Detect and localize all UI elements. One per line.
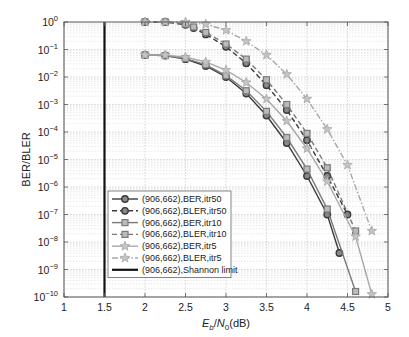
circle-marker-icon [122, 196, 128, 202]
y-tick-label: 10−2 [38, 69, 58, 83]
legend-label: (906,662),BER,itr10 [142, 218, 222, 228]
y-tick-label: 10−9 [38, 262, 58, 276]
x-tick-label: 2 [142, 301, 148, 313]
y-tick-label: 100 [42, 14, 58, 28]
square-marker-icon [122, 231, 128, 237]
square-marker-icon [122, 220, 128, 226]
x-tick-label: 3.5 [259, 301, 274, 313]
y-tick-label: 10−10 [34, 289, 58, 303]
legend-label: (906,662),BLER,itr5 [142, 253, 222, 263]
square-marker-icon [284, 102, 290, 108]
y-tick-label: 10−3 [38, 97, 58, 111]
square-marker-icon [243, 56, 249, 62]
square-marker-icon [203, 29, 209, 35]
square-marker-icon [264, 108, 270, 114]
square-marker-icon [324, 165, 330, 171]
square-marker-icon [264, 77, 270, 83]
legend-label: (906,662),Shannon limit [142, 265, 238, 275]
x-tick-label: 4.5 [340, 301, 355, 313]
square-marker-icon [304, 166, 310, 172]
x-tick-label: 3 [223, 301, 229, 313]
square-marker-icon [304, 130, 310, 136]
square-marker-icon [353, 289, 359, 295]
star-marker-icon [322, 124, 332, 133]
y-tick-label: 10−6 [38, 179, 58, 193]
legend-label: (906,662),BLER,itr50 [142, 206, 227, 216]
circle-marker-icon [122, 208, 128, 214]
legend-label: (906,662),BER,itr5 [142, 241, 217, 251]
y-tick-label: 10−4 [38, 124, 58, 138]
y-tick-label: 10−7 [38, 207, 58, 221]
square-marker-icon [243, 88, 249, 94]
x-tick-label: 1.5 [97, 301, 112, 313]
legend-item: (906,662),BER,itr10 [112, 218, 222, 228]
y-tick-label: 10−5 [38, 152, 58, 166]
ber-bler-chart: 11.522.533.544.55 10010−110−210−310−410−… [0, 0, 409, 337]
legend-label: (906,662),BER,itr50 [142, 194, 222, 204]
x-tick-label: 1 [61, 301, 67, 313]
y-tick-label: 10−8 [38, 234, 58, 248]
x-tick-label: 5 [385, 301, 391, 313]
star-marker-icon [201, 19, 211, 28]
square-marker-icon [223, 41, 229, 47]
legend: (906,662),BER,itr50(906,662),BLER,itr50(… [108, 191, 238, 278]
legend-label: (906,662),BLER,itr10 [142, 229, 227, 239]
square-marker-icon [191, 24, 197, 30]
x-tick-label: 2.5 [178, 301, 193, 313]
y-tick-label: 10−1 [38, 42, 58, 56]
x-tick-label: 4 [304, 301, 310, 313]
x-axis-label: Eb/N0(dB) [202, 317, 250, 332]
y-axis-label: BER/BLER [20, 132, 32, 186]
square-marker-icon [324, 206, 330, 212]
square-marker-icon [284, 135, 290, 141]
